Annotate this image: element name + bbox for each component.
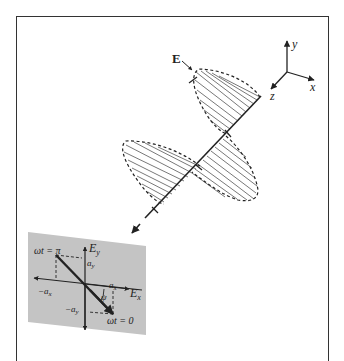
field-pointer-arrow	[182, 61, 192, 70]
propagation-axis	[132, 77, 261, 233]
x-axis-arrow	[287, 72, 314, 80]
label-psi: ψ	[101, 292, 107, 302]
label-omega-t-0: ωt = 0	[107, 315, 134, 326]
field-label: E	[172, 51, 181, 66]
x-axis-label: x	[309, 80, 316, 94]
wave-hatching	[124, 71, 260, 202]
polarization-inset: ωt = π Ey ay −ax ax Ex ψ −ay ωt = 0	[28, 232, 146, 335]
y-axis-label: y	[291, 37, 298, 51]
label-omega-t-pi: ωt = π	[34, 245, 62, 256]
z-axis-label: z	[269, 89, 275, 103]
z-axis-arrow	[271, 72, 287, 89]
right-lobe-envelope	[192, 136, 258, 201]
